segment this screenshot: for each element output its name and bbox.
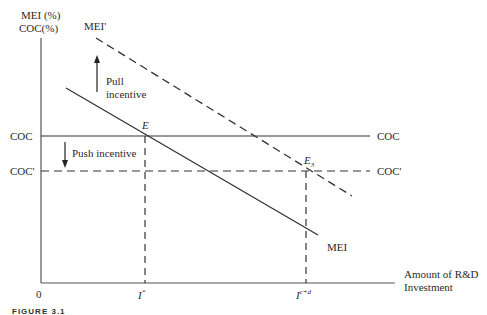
x-axis-label-2: Investment	[404, 281, 453, 293]
point-e-label: E	[141, 119, 149, 131]
y-axis-label-2: COC(%)	[19, 22, 58, 35]
mei-coc-diagram: MEI (%) COC(%) MEI' Pull incentive COC C…	[0, 0, 487, 315]
coc-right-label: COC	[377, 130, 400, 142]
push-arrow-head-icon	[62, 160, 68, 168]
mei-label: MEI	[327, 241, 348, 253]
y-axis-label-1: MEI (%)	[21, 9, 61, 22]
push-label: Push incentive	[72, 147, 137, 159]
point-e3-label: E3	[303, 154, 315, 169]
i-cd-label: Ic+d	[295, 288, 312, 301]
pull-label-2: incentive	[106, 88, 146, 100]
mei-line	[66, 88, 318, 235]
x-axis-label-1: Amount of R&D	[404, 268, 479, 280]
mei-shifted-label: MEI'	[84, 20, 106, 32]
figure-caption: FIGURE 3.1	[12, 307, 66, 315]
coc-shifted-left-label: COC'	[10, 165, 35, 177]
pull-label-1: Pull	[106, 75, 124, 87]
i-star-label: I*	[137, 288, 146, 301]
origin-label: 0	[36, 288, 42, 300]
coc-shifted-right-label: COC'	[377, 165, 402, 177]
pull-arrow-head-icon	[94, 55, 100, 63]
mei-shifted-line	[96, 38, 352, 196]
coc-left-label: COC	[10, 130, 33, 142]
